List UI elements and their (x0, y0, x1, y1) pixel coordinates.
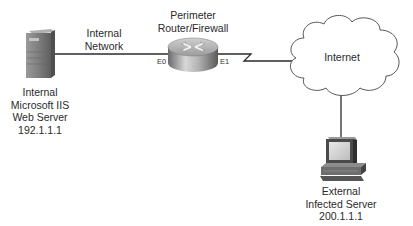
router-label-line: Router/Firewall (148, 22, 238, 35)
server-label-line: Web Server (0, 111, 80, 124)
workstation-icon (320, 137, 366, 181)
external-label-line: External (296, 185, 386, 198)
internal-server-label: Internal Microsoft IIS Web Server 192.1.… (0, 86, 80, 136)
router-icon (168, 38, 218, 72)
port-label-e1: E1 (220, 57, 229, 66)
server-label-line: Internal (0, 86, 80, 99)
server-label-line: Microsoft IIS (0, 99, 80, 112)
link-label-internal-network: Internal Network (74, 27, 134, 52)
server-ip-label: 192.1.1.1 (0, 124, 80, 137)
router-label-line: Perimeter (148, 9, 238, 22)
link-label-line: Network (74, 40, 134, 53)
external-label-line: Infected Server (296, 198, 386, 211)
internet-label: Internet (318, 51, 366, 64)
external-ip-label: 200.1.1.1 (296, 210, 386, 223)
router-label: Perimeter Router/Firewall (148, 9, 238, 34)
port-label-e0: E0 (157, 57, 166, 66)
server-tower-icon (26, 29, 55, 78)
external-server-label: External Infected Server 200.1.1.1 (296, 185, 386, 223)
link-label-line: Internal (74, 27, 134, 40)
